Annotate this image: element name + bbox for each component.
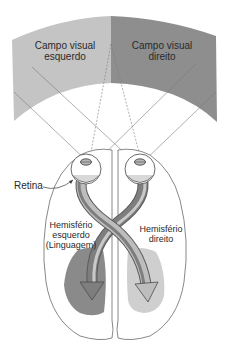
right-visual-field-label: Campo visual direito <box>126 40 198 62</box>
right-hemisphere-label: Hemisfério direito <box>136 224 186 244</box>
retina-label: Retina <box>14 180 43 191</box>
left-hemisphere-label: Hemisfério esquerdo (Linguagem) <box>40 220 102 250</box>
right-eye <box>125 154 155 184</box>
visual-field-band <box>12 16 217 122</box>
left-eye <box>71 154 101 184</box>
left-visual-field <box>12 16 111 121</box>
left-visual-field-label: Campo visual esquerdo <box>30 40 100 62</box>
